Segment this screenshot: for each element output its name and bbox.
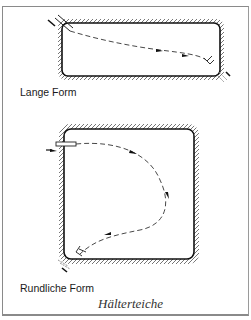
round-pond bbox=[46, 124, 199, 272]
long-pond bbox=[48, 15, 230, 82]
label-round-form: Rundliche Form bbox=[20, 282, 94, 294]
pond-diagrams bbox=[0, 0, 251, 320]
label-long-form: Lange Form bbox=[20, 86, 77, 98]
figure-caption: Hälterteiche bbox=[98, 296, 163, 312]
